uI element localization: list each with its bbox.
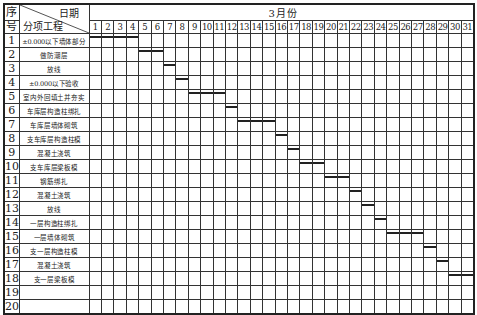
day-cell [201, 34, 213, 48]
day-header-28: 28 [424, 21, 436, 34]
day-cell [188, 160, 200, 174]
day-cell [288, 244, 300, 258]
day-cell [139, 146, 151, 160]
day-cell [275, 118, 287, 132]
day-cell [126, 286, 138, 300]
day-cell [412, 230, 424, 244]
day-cell [151, 90, 163, 104]
day-cell [114, 132, 126, 146]
day-cell [374, 90, 386, 104]
day-cell [387, 300, 399, 315]
day-cell [163, 160, 175, 174]
day-header-1: 1 [89, 21, 101, 34]
day-cell [176, 258, 188, 272]
day-cell [374, 146, 386, 160]
day-cell [101, 286, 113, 300]
day-cell [424, 62, 436, 76]
gantt-bar-segment [337, 176, 349, 178]
gantt-bar-segment [151, 50, 163, 52]
day-cell [225, 272, 237, 286]
day-cell [201, 244, 213, 258]
day-cell [374, 104, 386, 118]
day-cell [151, 104, 163, 118]
gantt-bar-segment [312, 162, 324, 164]
gantt-bar-segment [263, 120, 275, 122]
day-cell [188, 76, 200, 90]
day-cell [201, 216, 213, 230]
day-cell [337, 300, 349, 315]
task-seq: 17 [4, 258, 19, 272]
day-cell [188, 118, 200, 132]
day-cell [238, 174, 250, 188]
gantt-bar-segment [114, 36, 126, 38]
day-cell [337, 118, 349, 132]
day-cell [424, 146, 436, 160]
task-seq: 2 [4, 48, 19, 62]
day-cell [374, 160, 386, 174]
day-cell [436, 230, 448, 244]
day-cell [461, 286, 474, 300]
day-cell [126, 62, 138, 76]
day-cell [101, 160, 113, 174]
day-cell [89, 76, 101, 90]
day-cell [114, 62, 126, 76]
day-cell [424, 300, 436, 315]
day-cell [250, 202, 262, 216]
day-cell [139, 118, 151, 132]
day-cell [263, 48, 275, 62]
day-cell [412, 62, 424, 76]
day-cell [263, 286, 275, 300]
day-cell [188, 188, 200, 202]
seq-header-top: 序 [4, 4, 19, 21]
day-cell [312, 216, 324, 230]
day-header-10: 10 [201, 21, 213, 34]
day-cell [337, 34, 349, 48]
task-row: 1±0.000以下墙体部分 [4, 34, 474, 48]
day-cell [312, 202, 324, 216]
day-cell [325, 230, 337, 244]
day-cell [412, 300, 424, 315]
day-cell [176, 160, 188, 174]
day-cell [275, 48, 287, 62]
day-cell [399, 230, 411, 244]
day-cell [399, 272, 411, 286]
day-cell [213, 146, 225, 160]
day-cell [350, 230, 362, 244]
day-cell [412, 104, 424, 118]
day-cell [250, 216, 262, 230]
task-seq: 4 [4, 76, 19, 90]
day-cell [89, 258, 101, 272]
day-cell [238, 90, 250, 104]
day-cell [225, 160, 237, 174]
day-cell [325, 244, 337, 258]
day-cell [436, 146, 448, 160]
task-name [19, 286, 89, 300]
day-cell [250, 160, 262, 174]
day-cell [461, 258, 474, 272]
day-cell [288, 90, 300, 104]
day-cell [89, 272, 101, 286]
day-cell [312, 34, 324, 48]
day-cell [225, 258, 237, 272]
day-cell [101, 34, 113, 48]
day-cell [300, 146, 312, 160]
gantt-bar-segment [399, 232, 411, 234]
day-cell [436, 132, 448, 146]
day-cell [114, 286, 126, 300]
day-header-6: 6 [151, 21, 163, 34]
day-cell [101, 76, 113, 90]
task-label: 分项工程 [23, 18, 63, 33]
day-cell [89, 48, 101, 62]
day-cell [350, 216, 362, 230]
day-cell [238, 202, 250, 216]
day-cell [238, 160, 250, 174]
task-seq: 1 [4, 34, 19, 48]
day-cell [188, 104, 200, 118]
gantt-bar-segment [437, 260, 449, 262]
day-cell [288, 202, 300, 216]
day-cell [449, 188, 461, 202]
day-cell [139, 62, 151, 76]
day-cell [126, 230, 138, 244]
day-cell [449, 34, 461, 48]
day-cell [362, 146, 374, 160]
